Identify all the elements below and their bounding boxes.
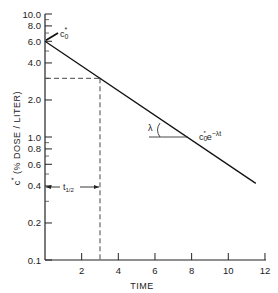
y-tick-label: 6.0 [28, 36, 41, 47]
y-ticks: 10.08.06.04.02.01.00.80.60.40.20.1 [23, 9, 53, 266]
y-axis-title: c* (% DOSE / LITER) [10, 91, 22, 185]
x-axis-title: TIME [130, 281, 154, 291]
y-tick-label: 0.6 [28, 159, 41, 170]
y-tick-label: 0.2 [28, 217, 41, 228]
chart: 10.08.06.04.02.01.00.80.60.40.20.1 24681… [0, 0, 278, 293]
decay-line [45, 41, 256, 183]
c0-pointer [46, 33, 58, 40]
lambda-label: λ [148, 123, 153, 133]
y-tick-label: 8.0 [28, 20, 41, 31]
x-tick-label: 2 [79, 265, 84, 276]
y-tick-label: 0.4 [28, 180, 41, 191]
x-tick-label: 10 [223, 265, 234, 276]
x-tick-label: 12 [260, 265, 271, 276]
y-tick-label: 4.0 [28, 57, 41, 68]
lambda-arc [158, 123, 161, 137]
c0-label: c0* [60, 26, 69, 40]
y-tick-label: 0.8 [28, 143, 41, 154]
x-tick-label: 6 [152, 265, 157, 276]
x-tick-label: 8 [189, 265, 194, 276]
y-tick-label: 10.0 [23, 9, 42, 20]
y-tick-label: 0.1 [28, 255, 41, 266]
x-ticks: 24681012 [79, 253, 270, 276]
fit-label: c0*e−λt [199, 130, 221, 142]
y-tick-label: 1.0 [28, 132, 41, 143]
half-life-arrow: t1/2 [46, 182, 99, 193]
half-life-label: t1/2 [63, 182, 75, 193]
x-tick-label: 4 [116, 265, 121, 276]
y-tick-label: 2.0 [28, 94, 41, 105]
